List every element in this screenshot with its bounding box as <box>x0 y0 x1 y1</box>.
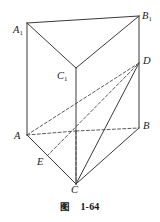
vertex-label-A: A <box>14 131 20 142</box>
vertex-letter: C <box>57 70 64 81</box>
edge-A1-C1 <box>27 23 76 68</box>
prism-diagram <box>0 0 160 222</box>
hidden-edge-H-B <box>76 128 139 131</box>
hidden-edge-A-H <box>27 131 76 135</box>
vertex-letter: A <box>14 130 20 141</box>
caption-number: 1-64 <box>80 201 99 212</box>
hidden-edges-group <box>27 63 139 184</box>
edge-B1-C1 <box>76 16 139 68</box>
figure-container: A1B1C1ABCDE 图1-64 <box>0 0 160 222</box>
vertex-label-C: C <box>71 185 78 196</box>
segment-A-D <box>27 63 139 135</box>
vertex-letter: C <box>71 184 78 195</box>
vertex-label-E: E <box>37 157 43 168</box>
vertex-label-C1: C1 <box>57 71 67 82</box>
vertex-subscript: 1 <box>19 29 22 36</box>
vertex-letter: D <box>143 55 151 66</box>
vertex-label-D: D <box>143 56 151 67</box>
vertex-label-A1: A1 <box>13 25 23 36</box>
vertex-letter: B <box>143 120 149 131</box>
caption-word: 图 <box>60 199 70 213</box>
vertex-subscript: 1 <box>64 75 67 82</box>
edge-B-C <box>76 128 139 184</box>
segment-C-D <box>76 63 139 184</box>
vertex-subscript: 1 <box>148 15 151 22</box>
vertex-letter: E <box>37 156 43 167</box>
vertex-label-B: B <box>143 121 149 132</box>
edge-A-C <box>27 135 76 184</box>
vertex-label-B1: B1 <box>142 11 152 22</box>
figure-caption: 图1-64 <box>0 199 160 213</box>
edge-A1-B1 <box>27 16 139 23</box>
visible-edges-group <box>27 16 139 184</box>
